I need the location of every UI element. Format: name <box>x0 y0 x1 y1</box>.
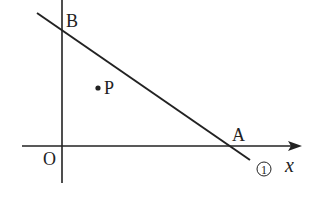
line-1 <box>37 13 250 160</box>
point-p <box>95 85 100 90</box>
label-x-axis: x <box>284 154 294 176</box>
coordinate-diagram: B P O A 1 x <box>0 0 315 205</box>
label-o: O <box>43 149 56 169</box>
label-a: A <box>232 125 245 145</box>
diagram-svg: B P O A 1 x <box>0 0 315 205</box>
label-line-number: 1 <box>261 163 267 177</box>
label-p: P <box>104 78 114 98</box>
label-b: B <box>66 11 78 31</box>
